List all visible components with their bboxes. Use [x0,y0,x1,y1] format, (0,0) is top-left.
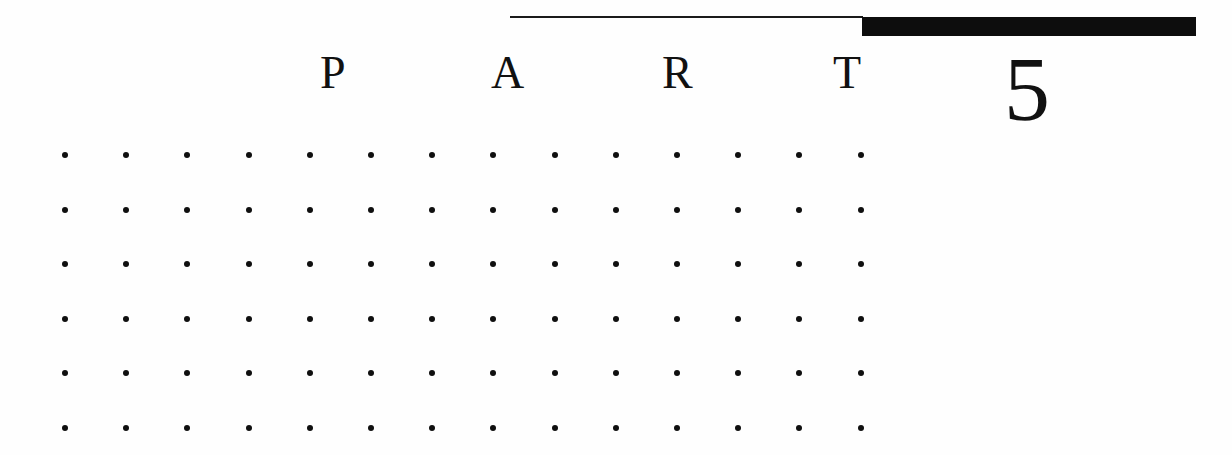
grid-dot [613,425,619,431]
grid-dot [552,425,558,431]
grid-dot [735,316,741,322]
grid-dot [246,370,252,376]
grid-dot [796,316,802,322]
grid-dot [552,316,558,322]
grid-dot [62,207,68,213]
grid-dot [307,316,313,322]
grid-dot [490,207,496,213]
grid-dot [674,425,680,431]
part-number: 5 [992,42,1062,136]
grid-dot [184,207,190,213]
grid-dot [429,316,435,322]
grid-dot [123,207,129,213]
grid-dot [62,425,68,431]
dot-grid-row [62,207,864,214]
grid-dot [674,370,680,376]
grid-dot [246,316,252,322]
grid-dot [123,370,129,376]
grid-dot [307,207,313,213]
grid-dot [429,207,435,213]
grid-dot [674,207,680,213]
grid-dot [246,261,252,267]
grid-dot [858,207,864,213]
grid-dot [123,316,129,322]
part-divider-page: P A R T 5 [0,0,1232,455]
grid-dot [368,207,374,213]
grid-dot [246,152,252,158]
grid-dot [368,425,374,431]
grid-dot [246,425,252,431]
grid-dot [184,261,190,267]
grid-dot [858,152,864,158]
dot-grid [62,152,864,432]
grid-dot [674,152,680,158]
grid-dot [307,152,313,158]
grid-dot [613,152,619,158]
grid-dot [552,152,558,158]
grid-dot [552,261,558,267]
part-letter-t: T [833,50,861,96]
grid-dot [796,261,802,267]
grid-dot [735,425,741,431]
grid-dot [858,425,864,431]
grid-dot [858,316,864,322]
part-letter-a: A [491,50,524,96]
grid-dot [613,207,619,213]
grid-dot [490,152,496,158]
grid-dot [368,316,374,322]
grid-dot [796,370,802,376]
grid-dot [796,425,802,431]
grid-dot [552,370,558,376]
part-wordmark: P A R T [320,50,880,106]
grid-dot [429,425,435,431]
grid-dot [490,261,496,267]
dot-grid-row [62,261,864,268]
grid-dot [184,370,190,376]
grid-dot [123,261,129,267]
dot-grid-row [62,316,864,323]
grid-dot [735,207,741,213]
thin-rule [510,16,863,18]
grid-dot [368,152,374,158]
grid-dot [613,316,619,322]
grid-dot [429,370,435,376]
grid-dot [796,207,802,213]
grid-dot [552,207,558,213]
grid-dot [735,370,741,376]
grid-dot [858,370,864,376]
grid-dot [184,152,190,158]
grid-dot [307,261,313,267]
grid-dot [184,316,190,322]
grid-dot [490,425,496,431]
grid-dot [368,261,374,267]
grid-dot [62,261,68,267]
grid-dot [62,152,68,158]
part-letter-p: P [320,50,346,96]
grid-dot [674,316,680,322]
grid-dot [613,261,619,267]
grid-dot [62,370,68,376]
grid-dot [62,316,68,322]
grid-dot [858,261,864,267]
dot-grid-row [62,370,864,377]
grid-dot [307,370,313,376]
part-letter-r: R [662,50,693,96]
grid-dot [796,152,802,158]
dot-grid-row [62,152,864,159]
grid-dot [735,261,741,267]
grid-dot [674,261,680,267]
grid-dot [368,370,374,376]
grid-dot [246,207,252,213]
grid-dot [490,316,496,322]
dot-grid-row [62,425,864,432]
grid-dot [613,370,619,376]
grid-dot [490,370,496,376]
thick-bar [862,17,1196,36]
grid-dot [123,425,129,431]
grid-dot [429,261,435,267]
grid-dot [184,425,190,431]
grid-dot [429,152,435,158]
grid-dot [735,152,741,158]
grid-dot [123,152,129,158]
grid-dot [307,425,313,431]
